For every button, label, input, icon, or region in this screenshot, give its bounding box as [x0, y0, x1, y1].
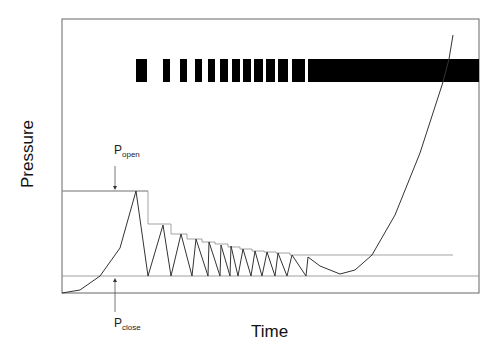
- p-open-arrow: [113, 166, 117, 190]
- arrow-down-icon: [113, 186, 117, 190]
- p-open-label: Popen: [114, 143, 140, 159]
- event-bar: [195, 59, 202, 82]
- event-bar: [163, 59, 170, 82]
- event-bar: [180, 59, 187, 82]
- p-open-main: P: [114, 143, 122, 157]
- arrow-up-icon: [113, 278, 117, 282]
- event-bar: [266, 59, 275, 82]
- event-bar: [254, 59, 263, 82]
- event-bar: [243, 59, 251, 82]
- event-bar: [136, 59, 147, 82]
- p-close-subscript: close: [122, 323, 141, 332]
- event-bar: [278, 59, 288, 82]
- p-open-subscript: open: [122, 150, 140, 159]
- p-close-main: P: [114, 316, 122, 330]
- y-axis-label: Pressure: [18, 120, 38, 188]
- event-bar: [292, 59, 305, 82]
- p-close-arrow: [113, 278, 117, 312]
- event-bar: [232, 59, 240, 82]
- event-bar: [220, 59, 228, 82]
- event-bar: [308, 59, 479, 82]
- pressure-time-diagram: [0, 0, 502, 352]
- event-bars: [136, 59, 479, 82]
- x-axis-label: Time: [251, 322, 288, 342]
- event-bar: [208, 59, 215, 82]
- p-close-label: Pclose: [114, 316, 141, 332]
